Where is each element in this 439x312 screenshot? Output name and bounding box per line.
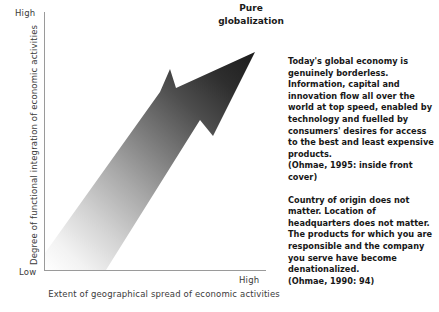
quote-panel: Today's global economy is genuinely bord… [288,56,436,287]
x-axis-line [44,270,266,271]
globalization-figure: High Low High Degree of functional integ… [0,0,439,312]
quote-source-1: (Ohmae, 1995: inside front cover) [288,160,436,183]
arrow-caption-line-2: globalization [196,15,306,28]
arrow-caption-line-1: Pure [196,2,306,15]
quote-text-2: Country of origin does not matter. Locat… [288,195,436,276]
arrow-shape [45,52,255,270]
arrow-caption: Pure globalization [196,2,306,28]
quote-block-1: Today's global economy is genuinely bord… [288,56,436,184]
quote-text-1: Today's global economy is genuinely bord… [288,56,436,160]
y-axis-line [44,12,45,271]
x-axis-high-label: High [239,275,259,285]
x-axis-title: Extent of geographical spread of economi… [44,289,284,299]
y-axis-title: Degree of functional integration of econ… [29,25,39,265]
quote-block-2: Country of origin does not matter. Locat… [288,195,436,288]
y-axis-high-label: High [15,8,35,18]
quote-source-2: (Ohmae, 1990: 94) [288,276,436,288]
y-axis-low-label: Low [19,267,36,277]
